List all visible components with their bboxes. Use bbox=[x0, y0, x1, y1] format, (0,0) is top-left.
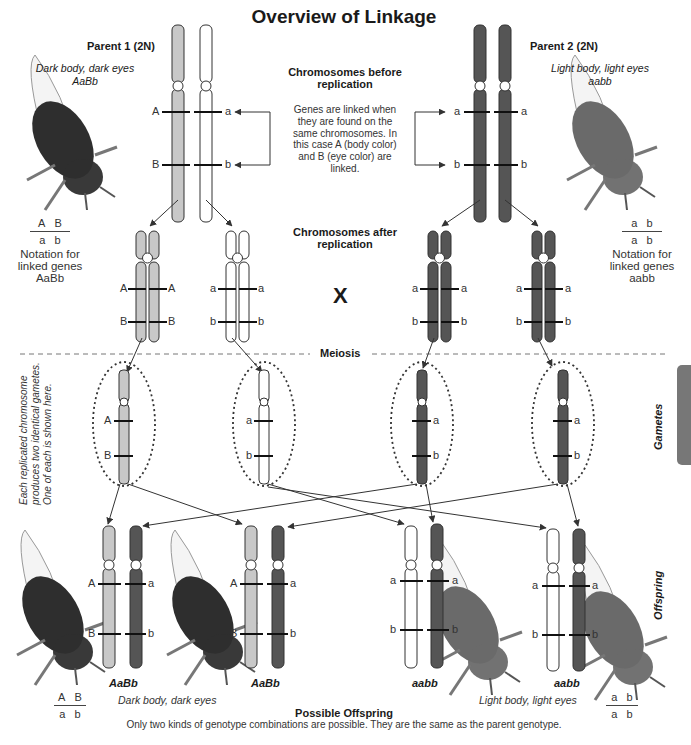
offspring-notation-left: A B a b bbox=[50, 691, 90, 720]
allele-label: a bbox=[210, 282, 216, 294]
parent1-notation: A B a b Notation for linked genes AaBb bbox=[15, 217, 85, 284]
allele-label: a bbox=[148, 577, 154, 589]
gametes bbox=[93, 362, 594, 486]
allele-label: b bbox=[148, 627, 154, 639]
possible-offspring-heading: Possible Offspring bbox=[140, 707, 548, 719]
allele-label: b bbox=[452, 623, 458, 635]
offspring2-fly-image bbox=[159, 530, 257, 685]
cross-symbol: X bbox=[333, 283, 348, 309]
gametes-label: Gametes bbox=[652, 404, 664, 450]
allele-label: a bbox=[532, 579, 538, 591]
allele-label: A bbox=[168, 282, 175, 294]
allele-label: a bbox=[412, 282, 418, 294]
allele-label: b bbox=[290, 627, 296, 639]
allele-label: b bbox=[412, 315, 418, 327]
page-title: Overview of Linkage bbox=[0, 6, 688, 28]
allele-label: A bbox=[120, 282, 127, 294]
allele-label: a bbox=[565, 282, 571, 294]
allele-label: b bbox=[433, 449, 439, 461]
offspring1-genotype: AaBb bbox=[109, 677, 138, 689]
allele-label: A bbox=[152, 105, 159, 117]
allele-label: a bbox=[258, 282, 264, 294]
allele-label: b bbox=[516, 315, 522, 327]
offspring-label: Offspring bbox=[652, 571, 664, 620]
offspring4-genotype: aabb bbox=[554, 677, 580, 689]
linkage-explanation: Genes are linked when they are found on … bbox=[278, 104, 412, 175]
allele-label: B bbox=[168, 315, 175, 327]
allele-label: b bbox=[592, 628, 598, 640]
allele-label: a bbox=[454, 105, 460, 117]
parent1-chromosomes-before bbox=[162, 25, 270, 222]
allele-label: b bbox=[521, 158, 527, 170]
allele-label: b bbox=[574, 449, 580, 461]
allele-label: B bbox=[104, 449, 111, 461]
allele-label: a bbox=[246, 414, 252, 426]
parent2-phenotype: Light body, light eyes bbox=[540, 62, 660, 74]
allele-label: b bbox=[258, 315, 264, 327]
allele-label: B bbox=[152, 158, 159, 170]
possible-offspring-caption: Only two kinds of genotype combinations … bbox=[120, 719, 568, 730]
allele-label: a bbox=[461, 282, 467, 294]
allele-label: a bbox=[592, 579, 598, 591]
allele-label: B bbox=[88, 627, 95, 639]
allele-label: a bbox=[516, 282, 522, 294]
allele-label: b bbox=[532, 628, 538, 640]
meiosis-label: Meiosis bbox=[320, 347, 360, 359]
parent2-notation: a b a b Notation for linked genes aabb bbox=[602, 217, 682, 284]
allele-label: b bbox=[390, 623, 396, 635]
parent1-genotype: AaBb bbox=[30, 75, 140, 87]
offspring2-genotype: AaBb bbox=[251, 677, 280, 689]
allele-label: a bbox=[290, 577, 296, 589]
allele-label: a bbox=[452, 574, 458, 586]
allele-label: b bbox=[565, 315, 571, 327]
allele-label: b bbox=[461, 315, 467, 327]
allele-label: a bbox=[390, 574, 396, 586]
offspring-light-phenotype: Light body, light eyes bbox=[479, 694, 577, 706]
offspring3-genotype: aabb bbox=[412, 677, 438, 689]
offspring-dark-phenotype: Dark body, dark eyes bbox=[118, 694, 216, 706]
allele-label: b bbox=[210, 315, 216, 327]
parent2-chromosomes-before bbox=[415, 25, 518, 222]
offspring1-fly-image bbox=[9, 530, 107, 685]
offspring-notation-right: a b a b bbox=[602, 691, 642, 720]
allele-label: B bbox=[230, 627, 237, 639]
parent1-phenotype: Dark body, dark eyes bbox=[30, 62, 140, 74]
allele-label: a bbox=[574, 414, 580, 426]
allele-label: A bbox=[88, 577, 95, 589]
allele-label: A bbox=[104, 414, 111, 426]
after-replication-heading: Chromosomes after replication bbox=[280, 226, 410, 250]
parent2-genotype: aabb bbox=[540, 75, 660, 87]
fertilization-arrows bbox=[108, 484, 578, 528]
parent1-label: Parent 1 (2N) bbox=[87, 40, 155, 52]
allele-label: A bbox=[230, 577, 237, 589]
before-replication-heading: Chromosomes before replication bbox=[280, 66, 410, 90]
side-tab bbox=[677, 365, 691, 465]
allele-label: b bbox=[246, 449, 252, 461]
allele-label: a bbox=[521, 105, 527, 117]
allele-label: B bbox=[120, 315, 127, 327]
allele-label: b bbox=[454, 158, 460, 170]
allele-label: b bbox=[225, 158, 231, 170]
parent2-label: Parent 2 (2N) bbox=[530, 40, 598, 52]
allele-label: a bbox=[225, 105, 231, 117]
allele-label: a bbox=[433, 414, 439, 426]
gamete-note: Each replicated chromosome produces two … bbox=[18, 362, 54, 505]
